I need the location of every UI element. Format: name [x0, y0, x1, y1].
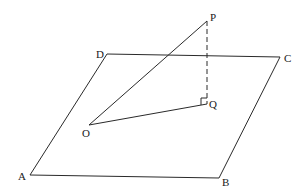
- label-d: D: [96, 48, 104, 60]
- label-o: O: [82, 127, 90, 139]
- label-a: A: [18, 170, 26, 182]
- segment-op: [89, 21, 207, 125]
- plane-abcd: [30, 54, 280, 178]
- label-c: C: [284, 52, 291, 64]
- segment-oq: [89, 104, 207, 125]
- geometry-diagram: A B C D P Q O: [0, 0, 307, 193]
- label-p: P: [210, 11, 216, 23]
- label-q: Q: [209, 98, 217, 110]
- label-b: B: [222, 176, 229, 188]
